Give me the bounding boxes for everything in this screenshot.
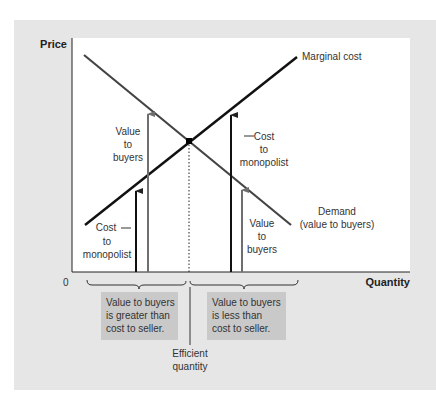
- right-region-text: is less than: [212, 310, 262, 321]
- chart-svg: Price Quantity 0 Marginal cost Demand (v…: [0, 0, 436, 394]
- left-value-label: buyers: [113, 152, 143, 163]
- demand-label-2: (value to buyers): [300, 219, 374, 230]
- equilibrium-point: [186, 138, 192, 144]
- left-region-text: cost to seller.: [106, 323, 164, 334]
- y-axis-label: Price: [40, 38, 67, 50]
- origin-label: 0: [63, 277, 69, 288]
- left-cost-label: Cost: [96, 222, 117, 233]
- left-cost-label: monopolist: [83, 249, 132, 260]
- efficient-label: quantity: [172, 361, 207, 372]
- demand-label-1: Demand: [318, 206, 356, 217]
- left-cost-label: to: [103, 236, 112, 247]
- right-region-text: cost to seller.: [212, 323, 270, 334]
- right-value-label: Value: [250, 218, 275, 229]
- left-value-label: Value: [116, 126, 141, 137]
- right-region-text: Value to buyers: [212, 297, 281, 308]
- efficient-label: Efficient: [172, 348, 208, 359]
- mc-label: Marginal cost: [302, 51, 362, 62]
- right-cost-label: to: [260, 144, 269, 155]
- right-cost-label: Cost: [254, 131, 275, 142]
- right-brace: [190, 280, 298, 289]
- x-axis-label: Quantity: [365, 276, 410, 288]
- right-value-label: buyers: [247, 244, 277, 255]
- left-brace: [87, 280, 186, 289]
- right-value-label: to: [258, 231, 267, 242]
- left-region-text: is greater than: [106, 310, 170, 321]
- left-value-label: to: [124, 139, 133, 150]
- left-region-text: Value to buyers: [106, 297, 175, 308]
- right-cost-label: monopolist: [240, 157, 289, 168]
